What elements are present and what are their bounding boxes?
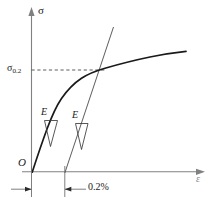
offset-line <box>65 27 114 173</box>
diagram-canvas <box>0 0 212 209</box>
y-axis-label: σ <box>38 5 44 16</box>
modulus-label-left: E <box>41 107 47 117</box>
modulus-triangle-left <box>45 121 58 147</box>
y-axis-arrowhead-icon <box>28 7 34 16</box>
yield-stress-subscript: 0.2 <box>12 67 21 75</box>
yield-stress-label: σ0.2 <box>7 63 21 75</box>
offset-value-label: 0.2% <box>88 182 109 192</box>
dimension-arrow-right-icon <box>65 187 72 192</box>
stress-strain-figure: σ ε σ0.2 O E E 0.2% <box>0 0 212 209</box>
origin-label: O <box>18 157 26 168</box>
dimension-arrow-left-icon <box>25 187 32 192</box>
stress-strain-curve <box>32 51 186 172</box>
x-axis-label: ε <box>196 174 200 184</box>
modulus-label-right: E <box>72 110 78 120</box>
